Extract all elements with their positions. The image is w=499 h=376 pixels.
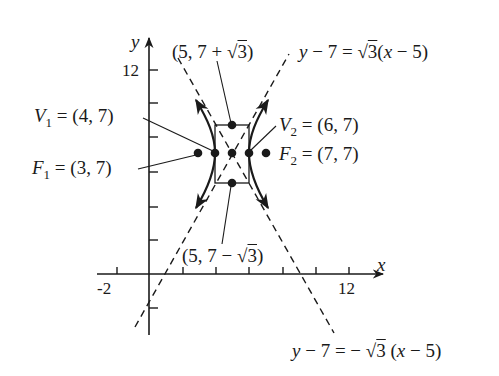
hyperbola-left-branch-upper <box>196 100 215 153</box>
x-tick-label-12: 12 <box>338 280 355 297</box>
vertex-1-point <box>211 149 220 158</box>
top-point-label: (5, 7 + √3) <box>172 42 253 61</box>
focus-1-point <box>194 149 203 158</box>
leader-f1 <box>138 155 196 169</box>
hyperbola-left-branch-lower <box>196 153 215 208</box>
x-tick-label-neg2: -2 <box>97 280 111 297</box>
leader-v1 <box>143 118 213 151</box>
y-axis-label: y <box>131 32 139 51</box>
focus-2-point <box>262 149 271 158</box>
center-point <box>228 149 237 158</box>
asymptote-negative-label: y − 7 = − √3 (x − 5) <box>292 341 441 360</box>
x-ticks <box>117 267 349 274</box>
x-axis-label: x <box>377 255 385 274</box>
v2-label: V2 = (6, 7) <box>279 115 358 134</box>
hyperbola-right-branch-lower <box>249 153 268 208</box>
hyperbola-figure: y x -2 12 12 (5, 7 + √3) V1 = (4, 7) F1 … <box>0 0 499 376</box>
vertex-2-point <box>245 149 254 158</box>
f2-label: F2 = (7, 7) <box>279 144 358 163</box>
top-covertex-point <box>228 121 237 130</box>
f1-label: F1 = (3, 7) <box>32 158 111 177</box>
y-tick-label-12: 12 <box>122 62 139 79</box>
bottom-point-label: (5, 7 − √3) <box>182 246 263 265</box>
v1-label: V1 = (4, 7) <box>34 106 113 125</box>
leader-v2 <box>251 126 276 150</box>
leader-bottom <box>222 186 231 244</box>
y-ticks <box>149 70 158 308</box>
leader-top <box>217 61 231 123</box>
asymptote-positive-label: y − 7 = √3(x − 5) <box>299 42 428 61</box>
asymptote-negative <box>178 58 334 333</box>
hyperbola-right-branch-upper <box>249 100 268 153</box>
asymptote-positive <box>135 54 289 327</box>
bottom-covertex-point <box>228 179 237 188</box>
